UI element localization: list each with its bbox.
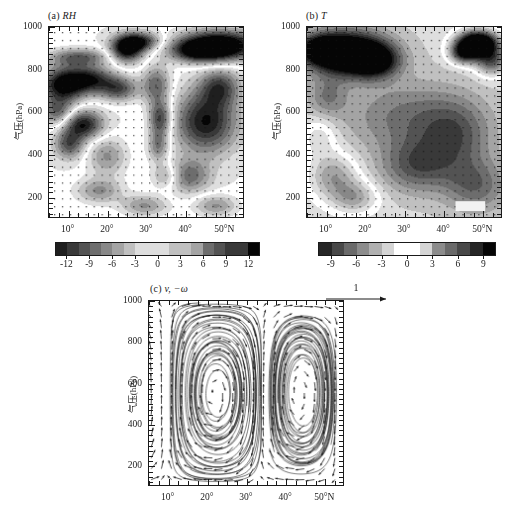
yaxis-right-tick bbox=[239, 48, 243, 49]
yaxis-right-tick bbox=[239, 38, 243, 39]
yaxis-right-tick bbox=[239, 123, 243, 124]
yaxis-minor-tick bbox=[49, 134, 53, 135]
yaxis-right-tick bbox=[497, 86, 501, 87]
yaxis-minor-tick bbox=[307, 59, 311, 60]
yaxis-minor-tick bbox=[307, 182, 311, 183]
yaxis-right-tick bbox=[497, 70, 501, 71]
colorbar-tick-label: -6 bbox=[352, 259, 360, 269]
yaxis-major-tick bbox=[307, 112, 313, 113]
xaxis-minor-tick bbox=[167, 213, 168, 217]
colorbar-tick-label: 6 bbox=[201, 259, 206, 269]
xaxis-top-tick bbox=[206, 27, 207, 31]
colorbar-cell bbox=[90, 243, 101, 255]
yaxis-right-tick bbox=[497, 102, 501, 103]
xaxis-minor-tick bbox=[335, 481, 336, 485]
yaxis-major-tick bbox=[149, 466, 155, 467]
xaxis-minor-tick bbox=[157, 213, 158, 217]
yaxis-major-tick bbox=[307, 27, 313, 28]
panel-b-plot-area bbox=[306, 26, 502, 218]
yaxis-right-tick bbox=[239, 102, 243, 103]
xaxis-minor-tick bbox=[176, 213, 177, 217]
yaxis-right-tick bbox=[239, 75, 243, 76]
yaxis-right-tick bbox=[497, 160, 501, 161]
xaxis-top-tick bbox=[227, 301, 228, 305]
colorbar-cell bbox=[445, 243, 458, 255]
colorbar-tick-label: -6 bbox=[108, 259, 116, 269]
xaxis-top-tick bbox=[198, 301, 199, 305]
yaxis-minor-tick bbox=[307, 80, 311, 81]
xaxis-minor-tick bbox=[206, 213, 207, 217]
yaxis-right-tick bbox=[497, 171, 501, 172]
xaxis-tick-label: 30° bbox=[139, 224, 152, 234]
xaxis-minor-tick bbox=[317, 213, 318, 217]
yaxis-minor-tick bbox=[149, 446, 153, 447]
yaxis-right-tick bbox=[497, 75, 501, 76]
yaxis-right-tick bbox=[339, 353, 343, 354]
panel-b-variable: T bbox=[321, 10, 327, 21]
yaxis-minor-tick bbox=[307, 118, 311, 119]
yaxis-minor-tick bbox=[307, 38, 311, 39]
colorbar-cell bbox=[191, 243, 202, 255]
yaxis-minor-tick bbox=[49, 139, 53, 140]
yaxis-right-tick bbox=[497, 176, 501, 177]
yaxis-minor-tick bbox=[307, 144, 311, 145]
xaxis-minor-tick bbox=[127, 213, 128, 217]
colorbar-cell bbox=[407, 243, 420, 255]
colorbar-cell bbox=[56, 243, 67, 255]
yaxis-right-tick bbox=[339, 327, 343, 328]
yaxis-minor-tick bbox=[49, 91, 53, 92]
yaxis-right-tick bbox=[239, 139, 243, 140]
xaxis-top-tick bbox=[316, 301, 317, 305]
xaxis-top-tick bbox=[444, 27, 445, 31]
yaxis-minor-tick bbox=[149, 461, 153, 462]
yaxis-minor-tick bbox=[307, 192, 311, 193]
yaxis-right-tick bbox=[497, 128, 501, 129]
xaxis-top-tick bbox=[395, 27, 396, 31]
xaxis-top-tick bbox=[483, 27, 484, 31]
colorbar-cell bbox=[67, 243, 78, 255]
yaxis-right-tick bbox=[497, 187, 501, 188]
xaxis-minor-tick bbox=[376, 213, 377, 217]
xaxis-top-tick bbox=[235, 27, 236, 31]
colorbar-tick-label: -3 bbox=[378, 259, 386, 269]
yaxis-minor-tick bbox=[49, 192, 53, 193]
colorbar-cell bbox=[344, 243, 357, 255]
yaxis-minor-tick bbox=[49, 160, 53, 161]
xaxis-top-tick bbox=[474, 27, 475, 31]
xaxis-top-tick bbox=[327, 27, 328, 31]
xaxis-minor-tick bbox=[235, 213, 236, 217]
xaxis-top-tick bbox=[434, 27, 435, 31]
yaxis-right-tick bbox=[239, 166, 243, 167]
yaxis-right-tick bbox=[497, 118, 501, 119]
xaxis-tick-label: 40° bbox=[179, 224, 192, 234]
xaxis-minor-tick bbox=[474, 213, 475, 217]
yaxis-right-tick bbox=[239, 54, 243, 55]
xaxis-top-tick bbox=[167, 27, 168, 31]
yaxis-tick-label: 400 bbox=[112, 419, 142, 429]
yaxis-major-tick bbox=[49, 155, 55, 156]
xaxis-top-tick bbox=[59, 27, 60, 31]
yaxis-minor-tick bbox=[149, 379, 153, 380]
colorbar-cell bbox=[470, 243, 483, 255]
yaxis-tick-label: 800 bbox=[12, 64, 42, 74]
xaxis-minor-tick bbox=[296, 481, 297, 485]
yaxis-right-tick bbox=[339, 404, 343, 405]
yaxis-minor-tick bbox=[149, 410, 153, 411]
yaxis-right-tick bbox=[339, 441, 343, 442]
yaxis-major-tick bbox=[307, 70, 313, 71]
xaxis-major-tick bbox=[147, 211, 148, 217]
xaxis-minor-tick bbox=[216, 213, 217, 217]
xaxis-tick-label: 20° bbox=[358, 224, 371, 234]
xaxis-tick-label: 20° bbox=[100, 224, 113, 234]
yaxis-right-tick bbox=[497, 144, 501, 145]
xaxis-major-tick bbox=[169, 479, 170, 485]
yaxis-right-tick bbox=[339, 394, 343, 395]
colorbar-cell bbox=[225, 243, 236, 255]
xaxis-minor-tick bbox=[88, 213, 89, 217]
yaxis-minor-tick bbox=[307, 43, 311, 44]
yaxis-right-tick bbox=[339, 337, 343, 338]
colorbar-tick-label: 9 bbox=[223, 259, 228, 269]
yaxis-minor-tick bbox=[149, 373, 153, 374]
yaxis-minor-tick bbox=[149, 420, 153, 421]
colorbar-cell bbox=[214, 243, 225, 255]
